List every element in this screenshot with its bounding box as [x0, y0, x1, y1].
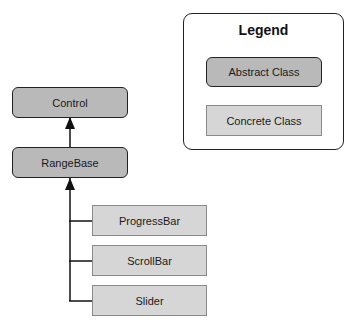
- legend-item-abstract: Abstract Class: [206, 57, 322, 87]
- node-control: Control: [12, 87, 128, 118]
- legend-title: Legend: [184, 22, 343, 38]
- arrowhead-icon: [65, 117, 75, 129]
- node-label: Control: [52, 97, 87, 109]
- legend: Legend Abstract Class Concrete Class: [183, 13, 344, 150]
- node-label: ScrollBar: [127, 255, 172, 267]
- arrowhead-icon: [65, 178, 75, 190]
- node-label: RangeBase: [41, 157, 99, 169]
- node-rangebase: RangeBase: [12, 147, 128, 178]
- node-label: ProgressBar: [119, 215, 180, 227]
- node-label: Slider: [135, 295, 163, 307]
- legend-label: Concrete Class: [226, 115, 301, 127]
- legend-item-concrete: Concrete Class: [206, 105, 322, 136]
- node-slider: Slider: [92, 285, 207, 316]
- node-progressbar: ProgressBar: [92, 205, 207, 236]
- legend-label: Abstract Class: [229, 66, 300, 78]
- node-scrollbar: ScrollBar: [92, 245, 207, 276]
